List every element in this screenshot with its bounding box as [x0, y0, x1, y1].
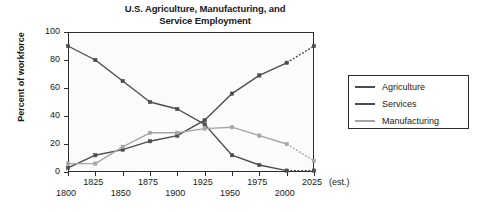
y-tick-label-60: 60 — [34, 82, 60, 92]
chart-title: U.S. Agriculture, Manufacturing, and Ser… — [60, 3, 350, 26]
y-tick-label-40: 40 — [34, 110, 60, 120]
legend-label-agriculture: Agriculture — [382, 82, 425, 92]
data-point-marker — [94, 58, 97, 61]
data-point-marker — [66, 162, 69, 165]
data-point-marker — [148, 131, 151, 134]
plot-background — [68, 32, 314, 172]
data-point-marker — [312, 159, 315, 162]
data-point-marker — [203, 123, 206, 126]
data-point-marker — [121, 145, 124, 148]
data-point-marker — [285, 142, 288, 145]
data-point-marker — [176, 107, 179, 110]
data-point-marker — [66, 166, 69, 169]
x-tick-label-1950: 1950 — [220, 188, 240, 198]
x-tick-label-2025: 2025 — [302, 177, 322, 187]
chart-legend: Agriculture Services Manufacturing — [348, 75, 469, 129]
data-point-marker — [258, 74, 261, 77]
data-point-marker — [258, 134, 261, 137]
data-point-marker — [312, 44, 315, 47]
y-tick-label-100: 100 — [34, 26, 60, 36]
y-tick-label-80: 80 — [34, 54, 60, 64]
data-point-marker — [66, 44, 69, 47]
data-point-marker — [312, 169, 315, 172]
x-tick-label-1975: 1975 — [247, 177, 267, 187]
data-point-marker — [230, 92, 233, 95]
x-tick-estimate-note: (est.) — [329, 177, 350, 187]
legend-swatch-services — [355, 103, 375, 105]
x-tick-label-1825: 1825 — [83, 177, 103, 187]
legend-item-services: Services — [355, 96, 417, 112]
chart-title-line-1: U.S. Agriculture, Manufacturing, and — [60, 3, 350, 15]
data-point-marker — [148, 100, 151, 103]
data-point-marker — [148, 140, 151, 143]
data-point-marker — [230, 126, 233, 129]
data-point-marker — [203, 119, 206, 122]
chart-title-line-2: Service Employment — [60, 15, 350, 27]
y-axis-label: Percent of workforce — [16, 22, 26, 132]
data-point-marker — [94, 154, 97, 157]
legend-item-manufacturing: Manufacturing — [355, 113, 439, 129]
x-tick-label-1800: 1800 — [56, 188, 76, 198]
data-point-marker — [176, 131, 179, 134]
legend-label-services: Services — [382, 99, 417, 109]
legend-label-manufacturing: Manufacturing — [382, 116, 439, 126]
legend-item-agriculture: Agriculture — [355, 79, 425, 95]
legend-swatch-agriculture — [355, 86, 375, 88]
data-point-marker — [203, 127, 206, 130]
x-tick-label-1850: 1850 — [111, 188, 131, 198]
x-tick-label-1875: 1875 — [138, 177, 158, 187]
chart-figure: U.S. Agriculture, Manufacturing, and Ser… — [0, 0, 477, 212]
x-tick-label-1900: 1900 — [165, 188, 185, 198]
x-tick-label-2000: 2000 — [275, 188, 295, 198]
data-point-marker — [121, 79, 124, 82]
legend-swatch-manufacturing — [355, 120, 375, 122]
y-tick-label-0: 0 — [34, 166, 60, 176]
x-tick-label-1925: 1925 — [193, 177, 213, 187]
data-point-marker — [230, 154, 233, 157]
data-point-marker — [285, 61, 288, 64]
data-point-marker — [285, 169, 288, 172]
data-point-marker — [258, 163, 261, 166]
y-tick-label-20: 20 — [34, 138, 60, 148]
data-point-marker — [94, 162, 97, 165]
